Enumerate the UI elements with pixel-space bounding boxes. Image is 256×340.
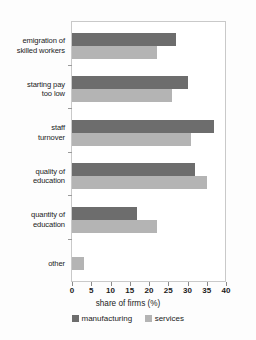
bar-manufacturing xyxy=(72,33,176,46)
category-label-line: education xyxy=(0,176,65,185)
x-axis-tick-label: 0 xyxy=(70,286,74,295)
x-axis-tick-label: 10 xyxy=(106,286,115,295)
category-label: emigration ofskilled workers xyxy=(0,36,65,55)
category-label-line: too low xyxy=(0,89,65,98)
x-axis-title: share of firms (%) xyxy=(0,299,256,308)
bar-chart: emigration ofskilled workersstarting pay… xyxy=(0,0,256,340)
legend-label: manufacturing xyxy=(81,314,132,323)
chart-legend: manufacturingservices xyxy=(0,314,256,323)
category-label: quality ofeducation xyxy=(0,167,65,186)
legend-swatch-icon xyxy=(145,315,152,322)
x-axis-tick-label: 15 xyxy=(125,286,134,295)
bar-services xyxy=(72,257,84,270)
x-axis-tick-label: 25 xyxy=(164,286,173,295)
x-axis-tick-label: 40 xyxy=(222,286,231,295)
bar-services xyxy=(72,133,191,146)
category-tick xyxy=(68,108,72,109)
category-label-line: education xyxy=(0,220,65,229)
bar-manufacturing xyxy=(72,207,137,220)
x-axis-tick-label: 30 xyxy=(183,286,192,295)
category-label-line: starting pay xyxy=(0,80,65,89)
category-axis: emigration ofskilled workersstarting pay… xyxy=(0,21,68,282)
category-label-line: emigration of xyxy=(0,36,65,45)
x-axis-tick-label: 20 xyxy=(145,286,154,295)
legend-swatch-icon xyxy=(72,315,79,322)
category-tick xyxy=(68,195,72,196)
x-axis-tick-label: 5 xyxy=(89,286,93,295)
legend-item-manufacturing[interactable]: manufacturing xyxy=(72,314,132,323)
category-tick xyxy=(68,239,72,240)
bar-services xyxy=(72,89,172,102)
category-label: starting paytoo low xyxy=(0,80,65,99)
bar-manufacturing xyxy=(72,120,214,133)
x-axis-tick-label: 35 xyxy=(202,286,211,295)
category-label-line: skilled workers xyxy=(0,46,65,55)
category-label-line: quality of xyxy=(0,167,65,176)
category-tick xyxy=(68,152,72,153)
bar-services xyxy=(72,176,207,189)
legend-label: services xyxy=(155,314,184,323)
legend-item-services[interactable]: services xyxy=(145,314,184,323)
category-label-line: other xyxy=(0,259,65,268)
category-label-line: quantity of xyxy=(0,210,65,219)
bar-services xyxy=(72,220,157,233)
category-label: quantity ofeducation xyxy=(0,210,65,229)
category-label: staffturnover xyxy=(0,123,65,142)
category-label: other xyxy=(0,259,65,268)
bars-layer xyxy=(72,21,226,282)
category-label-line: staff xyxy=(0,123,65,132)
category-label-line: turnover xyxy=(0,133,65,142)
bar-manufacturing xyxy=(72,163,195,176)
bar-manufacturing xyxy=(72,76,188,89)
bar-services xyxy=(72,46,157,59)
category-tick xyxy=(68,65,72,66)
